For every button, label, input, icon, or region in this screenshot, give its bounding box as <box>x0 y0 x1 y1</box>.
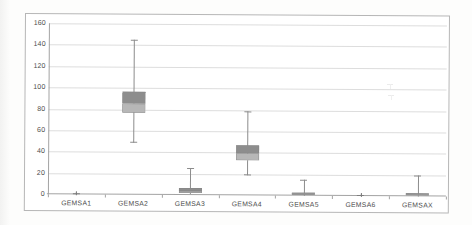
y-axis-labels: 020406080100120140160 <box>26 14 449 17</box>
whisker-cap-top-GEMSA3 <box>187 168 194 169</box>
x-axis-label-GEMSA4: GEMSA4 <box>218 200 275 208</box>
gridline-140 <box>49 45 447 48</box>
y-tick-label: 80 <box>25 105 45 113</box>
box-upper-GEMSA2 <box>122 92 145 104</box>
y-tick-label: 120 <box>26 62 46 70</box>
whisker-GEMSA2 <box>133 40 135 143</box>
gridline-120 <box>49 66 447 69</box>
y-tick-label: 60 <box>25 126 45 134</box>
scan-artifact-stem <box>390 84 391 89</box>
y-tick-label: 40 <box>25 147 45 155</box>
y-tick-label: 20 <box>25 169 45 177</box>
whisker-GEMSA4 <box>247 111 248 175</box>
box-upper-GEMSA4 <box>236 145 259 154</box>
x-axis-label-GEMSAX: GEMSAX <box>389 201 446 209</box>
whisker-cap-top-GEMSA5 <box>300 180 307 181</box>
boxplot-chart: 020406080100120140160 GEMSA1GEMSA2GEMSA3… <box>24 13 450 214</box>
box-lower-GEMSA4 <box>236 154 259 161</box>
x-axis-tick <box>105 194 106 197</box>
x-axis-tick <box>48 194 49 197</box>
scan-artifact-mark <box>390 84 396 90</box>
gridline-160 <box>49 23 447 26</box>
plot-area <box>48 23 447 196</box>
collapsed-box-marker-stem-GEMSA1 <box>76 191 77 195</box>
y-tick-label: 140 <box>26 40 46 48</box>
collapsed-box-marker-stem-GEMSA6 <box>361 193 362 197</box>
whisker-cap-bottom-GEMSA2 <box>130 141 137 142</box>
x-axis-tick <box>389 196 390 199</box>
x-axis-label-GEMSA6: GEMSA6 <box>332 201 389 209</box>
gridline-100 <box>49 87 447 90</box>
scan-artifact-stem <box>391 95 392 100</box>
y-tick-label: 100 <box>26 83 46 91</box>
box-lower-GEMSA3 <box>179 191 202 193</box>
x-axis-label-GEMSA3: GEMSA3 <box>162 200 219 208</box>
x-axis-tick <box>446 197 447 200</box>
x-axis-tick <box>218 195 219 198</box>
x-axis-line <box>47 193 446 196</box>
whisker-cap-bottom-GEMSA4 <box>244 174 251 175</box>
box-lower-GEMSA5 <box>292 194 315 195</box>
y-tick-label: 0 <box>25 190 45 198</box>
whisker-cap-top-GEMSA4 <box>244 111 251 112</box>
box-lower-GEMSAX <box>406 195 429 196</box>
x-axis-label-GEMSA5: GEMSA5 <box>275 201 332 209</box>
x-axis-tick <box>162 195 163 198</box>
whisker-cap-top-GEMSA2 <box>131 40 138 41</box>
x-axis-labels: GEMSA1GEMSA2GEMSA3GEMSA4GEMSA5GEMSA6GEMS… <box>26 14 449 17</box>
x-axis-label-GEMSA1: GEMSA1 <box>48 199 105 207</box>
x-axis-tick <box>275 196 276 199</box>
x-axis-tick <box>332 196 333 199</box>
scan-artifact-mark <box>391 95 397 101</box>
x-axis-label-GEMSA2: GEMSA2 <box>105 199 162 207</box>
y-tick-label: 160 <box>26 19 46 27</box>
whisker-cap-top-GEMSAX <box>414 175 421 176</box>
box-lower-GEMSA2 <box>122 104 145 113</box>
